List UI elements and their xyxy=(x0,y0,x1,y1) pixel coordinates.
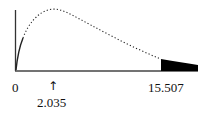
chi-square-density-chart xyxy=(0,0,212,117)
critical-region xyxy=(161,59,198,71)
density-curve-rise xyxy=(16,38,23,70)
density-curve xyxy=(23,9,161,59)
x-tick-zero: 0 xyxy=(12,81,19,94)
critical-value-label: 15.507 xyxy=(148,81,184,94)
marked-value-label: 2.035 xyxy=(37,96,66,109)
arrow-marker-icon: ↑ xyxy=(48,80,58,92)
